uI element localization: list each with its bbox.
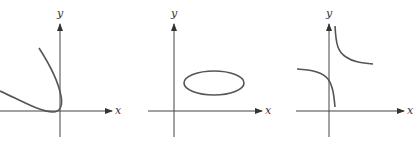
y-axis-label: y [325,7,333,20]
x-axis-label: x [115,104,122,117]
y-axis-label: y [170,7,178,20]
ellipse-curve [184,71,244,95]
hyperbola-upper-branch [335,26,373,64]
curve-1 [0,48,62,112]
graph-panel-1: y x [0,7,122,137]
graphs-figure: y x y x y x [0,0,420,151]
x-axis-label: x [407,104,414,117]
y-axis-label: y [56,7,64,20]
graph-panel-2: y x [148,7,272,137]
graph-panel-3: y x [296,7,414,137]
x-axis-label: x [265,104,272,117]
